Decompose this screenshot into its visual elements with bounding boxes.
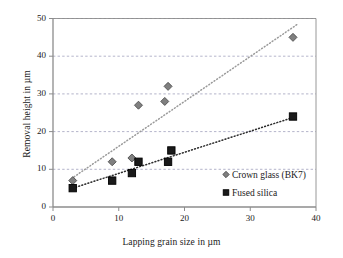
y-tick-label: 30 — [20, 88, 46, 98]
chart-figure: Lapping grain size in µm Removal height … — [0, 0, 343, 258]
data-point-square — [128, 169, 135, 176]
x-tick-label: 40 — [301, 213, 331, 223]
data-point-square — [135, 158, 142, 165]
y-tick-label: 0 — [20, 201, 46, 211]
data-point-square — [289, 113, 296, 120]
x-tick-label: 0 — [38, 213, 68, 223]
data-point-square — [168, 147, 175, 154]
data-point-square — [108, 177, 115, 184]
legend-marker-square — [223, 190, 229, 196]
x-tick-label: 10 — [104, 213, 134, 223]
x-axis-title: Lapping grain size in µm — [0, 237, 343, 247]
y-tick-label: 20 — [20, 126, 46, 136]
legend-label-fused-silica: Fused silica — [232, 188, 277, 198]
data-point-square — [69, 184, 76, 191]
data-point-square — [164, 158, 171, 165]
x-tick-label: 30 — [235, 213, 265, 223]
legend-label-crown-glass: Crown glass (BK7) — [232, 170, 306, 180]
x-tick-label: 20 — [170, 213, 200, 223]
y-tick-label: 50 — [20, 13, 46, 23]
y-tick-label: 10 — [20, 163, 46, 173]
y-tick-label: 40 — [20, 50, 46, 60]
